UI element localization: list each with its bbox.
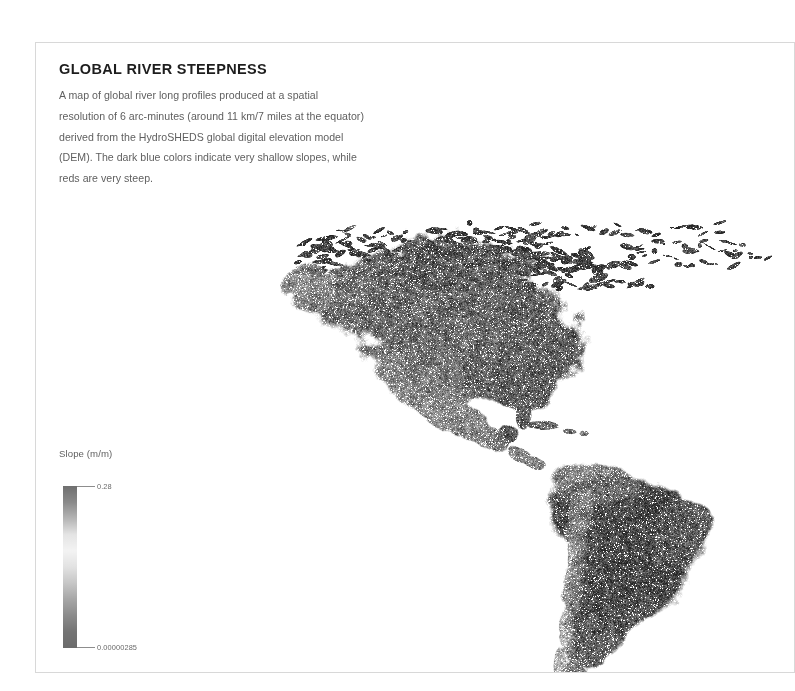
legend-body: 0.28 0.00000285 [59, 486, 209, 654]
legend: Slope (m/m) 0.28 0.00000285 [59, 448, 209, 654]
legend-label-min: 0.00000285 [97, 643, 137, 652]
legend-label-max: 0.28 [97, 482, 112, 491]
legend-title: Slope (m/m) [59, 448, 209, 459]
legend-colorbar [63, 486, 77, 648]
page-title: GLOBAL RIVER STEEPNESS [59, 61, 267, 77]
legend-tick-max [77, 486, 95, 487]
description-text: A map of global river long profiles prod… [59, 85, 364, 189]
card-inner: GLOBAL RIVER STEEPNESS A map of global r… [36, 43, 794, 672]
infographic-card: GLOBAL RIVER STEEPNESS A map of global r… [35, 42, 795, 673]
legend-tick-min [77, 647, 95, 648]
